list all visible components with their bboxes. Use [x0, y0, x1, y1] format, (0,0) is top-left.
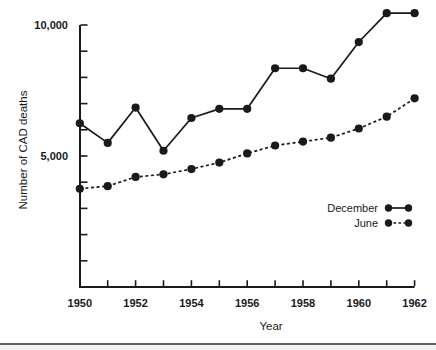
series-june-point: [299, 137, 307, 145]
series-june-point: [271, 141, 279, 149]
legend-solid-line-marker-icon: [384, 203, 413, 213]
series-june-point: [132, 173, 140, 181]
x-tick-label: 1960: [347, 297, 371, 309]
series-december-point: [271, 64, 279, 72]
y-tick-label: 10,000: [34, 19, 68, 31]
series-december-point: [159, 147, 167, 155]
series-june-point: [411, 94, 419, 102]
x-tick-label: 1952: [123, 297, 147, 309]
series-december-point: [411, 9, 419, 17]
figure-bottom-strip: [0, 345, 436, 350]
x-tick-label: 1962: [402, 297, 426, 309]
x-tick-label: 1950: [68, 297, 92, 309]
legend-label: June: [354, 217, 378, 229]
x-tick-label: 1956: [235, 297, 259, 309]
legend-label: December: [327, 202, 378, 214]
series-june-point: [76, 185, 84, 193]
legend-entry-june: June: [295, 216, 413, 230]
series-december-point: [76, 119, 84, 127]
series-december-point: [243, 105, 251, 113]
series-december-point: [383, 9, 391, 17]
series-december-point: [355, 38, 363, 46]
series-december-point: [187, 114, 195, 122]
cad-deaths-figure: 5,00010,0001950195219541956195819601962 …: [0, 0, 436, 350]
series-june-point: [215, 158, 223, 166]
series-june-point: [159, 170, 167, 178]
series-december-point: [299, 64, 307, 72]
series-december-point: [327, 75, 335, 83]
series-december-point: [104, 139, 112, 147]
x-tick-label: 1958: [291, 297, 315, 309]
y-axis-title: Number of CAD deaths: [17, 91, 29, 210]
x-tick-label: 1954: [179, 297, 204, 309]
legend: DecemberJune: [295, 201, 413, 231]
series-june-point: [187, 165, 195, 173]
line-chart-svg: 5,00010,0001950195219541956195819601962: [0, 0, 436, 350]
series-june-point: [104, 182, 112, 190]
series-june-point: [243, 149, 251, 157]
series-june-point: [383, 113, 391, 121]
series-june-point: [355, 124, 363, 132]
y-tick-label: 5,000: [40, 150, 68, 162]
legend-dashed-line-marker-icon: [384, 218, 413, 228]
legend-entry-december: December: [295, 201, 413, 215]
series-december-line: [80, 13, 415, 151]
series-june-point: [327, 134, 335, 142]
x-axis-title: Year: [259, 320, 282, 332]
series-december-point: [132, 103, 140, 111]
series-december-point: [215, 105, 223, 113]
